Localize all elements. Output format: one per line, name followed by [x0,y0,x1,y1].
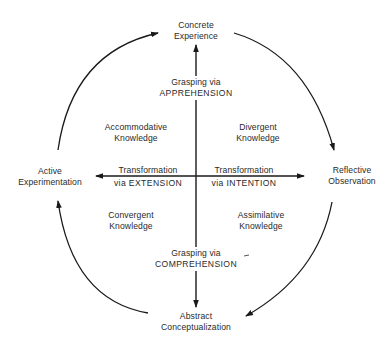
label-line: Experience [174,31,218,42]
quadrant-convergent-knowledge: Convergent Knowledge [108,210,153,232]
label-line: Reflective [328,165,375,176]
axis-label-intention: Transformation via INTENTION [212,164,277,190]
quadrant-accommodative-knowledge: Accommodative Knowledge [105,122,167,144]
label-line: Experimentation [18,177,82,188]
label-line: Assimilative [238,210,285,221]
label-line: Concrete [174,20,218,31]
label-line: Conceptualization [161,322,231,333]
label-line: COMPREHENSION [155,259,237,270]
pole-abstract-conceptualization: Abstract Conceptualization [161,311,231,333]
quadrant-assimilative-knowledge: Assimilative Knowledge [238,210,285,232]
label-line: Transformation [114,164,182,177]
label-line: Knowledge [108,221,153,232]
axis-label-comprehension: Grasping via COMPREHENSION [153,247,239,271]
pole-active-experimentation: Active Experimentation [18,166,82,188]
label-line: Knowledge [105,133,167,144]
label-line: via EXTENSION [114,177,182,190]
label-line: APPREHENSION [159,88,232,99]
label-line: Grasping via [159,77,232,88]
label-line: Knowledge [238,221,285,232]
label-line: Convergent [108,210,153,221]
label-line: Abstract [161,311,231,322]
pole-reflective-observation: Reflective Observation [328,165,375,187]
label-line: Active [18,166,82,177]
pole-concrete-experience: Concrete Experience [174,20,218,42]
axis-label-apprehension: Grasping via APPREHENSION [157,76,234,100]
label-line: via INTENTION [212,177,277,190]
label-line: Observation [328,176,375,187]
label-line: Divergent [236,122,279,133]
quadrant-divergent-knowledge: Divergent Knowledge [236,122,279,144]
label-line: Accommodative [105,122,167,133]
label-line: Grasping via [155,248,237,259]
label-line: Knowledge [236,133,279,144]
label-line: Transformation [212,164,277,177]
axis-label-extension: Transformation via EXTENSION [114,164,182,190]
